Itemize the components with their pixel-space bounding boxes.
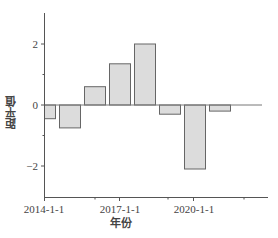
bar-1 — [45, 105, 56, 119]
y-axis — [41, 13, 45, 197]
bar-4 — [110, 64, 131, 105]
bar-5 — [135, 44, 156, 105]
bars — [45, 44, 231, 169]
bar-7 — [185, 105, 206, 169]
y-axis-title: 距平值 — [6, 96, 24, 129]
y-tick-label-0: 0 — [33, 99, 39, 111]
bar-chart: 2 0 −2 2014-1-1 2017-1-1 2020-1-1 — [0, 0, 278, 238]
x-axis-title: 年份 — [110, 214, 132, 230]
y-tick-label-2: 2 — [33, 38, 39, 50]
x-axis — [44, 198, 268, 202]
bar-3 — [85, 87, 106, 105]
x-tick-label-2020: 2020-1-1 — [174, 203, 214, 215]
bar-8 — [210, 105, 231, 111]
x-tick-label-2014: 2014-1-1 — [24, 203, 64, 215]
bar-6 — [160, 105, 181, 114]
bar-2 — [60, 105, 81, 128]
y-tick-label-minus2: −2 — [26, 160, 38, 172]
